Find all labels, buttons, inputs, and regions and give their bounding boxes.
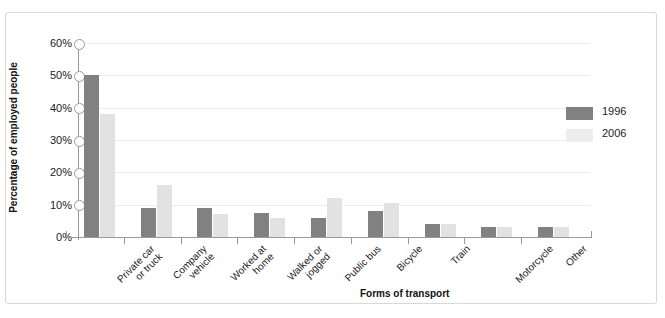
y-axis-tick-label: 30% [36,134,72,146]
bar-2006 [213,214,228,237]
y-axis-tick-label: 40% [36,102,72,114]
bar-2006 [270,218,285,237]
bar-2006 [441,224,456,237]
y-axis-tick-label: 10% [36,199,72,211]
x-axis-tickmark [294,238,295,244]
legend-label: 1996 [602,105,626,117]
x-axis-tickmark [124,238,125,244]
x-axis-tickmark [521,238,522,244]
bar-2006 [384,203,399,237]
x-axis-tickmark [408,238,409,244]
bar-2006 [327,198,342,237]
y-axis-tick-label: 20% [36,166,72,178]
x-axis-tickmark [181,238,182,244]
y-axis-tick-label: 60% [36,37,72,49]
bar-1996 [197,208,212,237]
x-axis-tickmark [351,238,352,244]
bar-group [197,43,228,237]
bar-1996 [254,213,269,237]
y-axis-tick-labels: 0%10%20%30%40%50%60% [28,0,72,318]
legend-swatch [566,107,593,120]
legend-swatch [566,129,593,142]
x-axis-tickmark [237,238,238,244]
bar-group [254,43,285,237]
bar-1996 [141,208,156,237]
bar-2006 [100,114,115,237]
x-axis-right-cap [591,231,592,238]
bar-1996 [425,224,440,237]
bar-2006 [554,227,569,237]
x-axis-line [66,237,592,238]
plot-area [79,43,590,237]
bar-2006 [497,227,512,237]
bar-1996 [368,211,383,237]
bar-1996 [538,227,553,237]
chart-screenshot: 0%10%20%30%40%50%60% Percentage of emplo… [0,0,665,318]
bar-group [368,43,399,237]
bar-group [425,43,456,237]
bar-group [141,43,172,237]
bar-group [311,43,342,237]
bar-1996 [311,218,326,237]
bar-1996 [84,75,99,237]
bar-2006 [157,185,172,237]
y-axis-tick-label: 50% [36,69,72,81]
bar-1996 [481,227,496,237]
legend-label: 2006 [602,127,626,139]
x-axis-title: Forms of transport [360,288,449,299]
bar-group [84,43,115,237]
bar-group [538,43,569,237]
y-axis-title: Percentage of employed people [8,53,19,223]
x-axis-left-cap [66,231,67,238]
bar-group [481,43,512,237]
